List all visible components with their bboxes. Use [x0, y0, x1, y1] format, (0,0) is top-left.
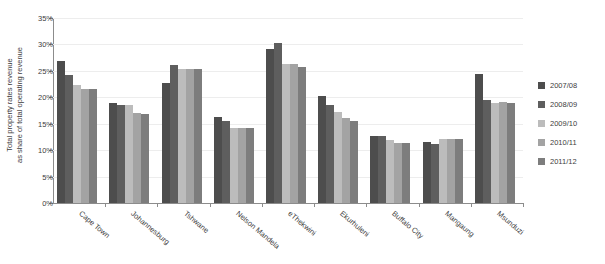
x-tick-mark	[157, 203, 158, 207]
bar	[326, 105, 334, 203]
x-tick-mark	[366, 203, 367, 207]
legend-swatch-icon	[538, 82, 545, 89]
y-tick-label: 5%	[9, 172, 53, 181]
y-tick-label: 10%	[9, 146, 53, 155]
bar	[162, 83, 170, 203]
bar	[81, 89, 89, 203]
legend-swatch-icon	[538, 120, 545, 127]
x-axis-label: Ekurhuleni	[338, 209, 371, 239]
bar	[507, 103, 515, 203]
legend-label: 2010/11	[550, 138, 577, 147]
bar-group	[423, 18, 463, 203]
bar	[246, 128, 254, 203]
bar-group	[266, 18, 306, 203]
x-tick-mark	[262, 203, 263, 207]
bar	[483, 100, 491, 203]
bar	[170, 65, 178, 203]
bar	[230, 128, 238, 203]
x-axis-label: Mangaung	[443, 209, 476, 239]
bar	[334, 112, 342, 203]
bar	[342, 118, 350, 203]
bar	[402, 143, 410, 203]
bar	[475, 74, 483, 204]
bar	[141, 114, 149, 203]
y-tick-label: 30%	[9, 40, 53, 49]
legend-label: 2007/08	[550, 81, 577, 90]
legend-item[interactable]: 2008/09	[538, 95, 605, 114]
bar	[455, 139, 463, 203]
bar-group	[370, 18, 410, 203]
legend: 2007/082008/092009/102010/112011/12	[538, 76, 605, 171]
bar	[499, 102, 507, 203]
bar	[178, 69, 186, 203]
bar-group	[162, 18, 202, 203]
bar-chart: Total property rates revenue as share of…	[0, 0, 605, 264]
bar	[298, 67, 306, 203]
legend-swatch-icon	[538, 139, 545, 146]
bar-group	[109, 18, 149, 203]
x-axis-label: Buffalo City	[391, 209, 426, 240]
y-tick-label: 20%	[9, 93, 53, 102]
legend-item[interactable]: 2011/12	[538, 152, 605, 171]
bar	[282, 64, 290, 203]
x-axis-label: Msunduzi	[495, 209, 525, 237]
legend-label: 2008/09	[550, 100, 577, 109]
bar	[350, 121, 358, 203]
x-tick-mark	[314, 203, 315, 207]
x-axis-line	[53, 203, 524, 204]
legend-item[interactable]: 2009/10	[538, 114, 605, 133]
bar	[89, 89, 97, 203]
x-tick-mark	[523, 203, 524, 207]
y-tick-label: 35%	[9, 14, 53, 23]
x-tick-mark	[471, 203, 472, 207]
bar	[214, 117, 222, 203]
bar	[109, 103, 117, 203]
bar	[73, 85, 81, 203]
bar	[491, 103, 499, 203]
bar	[222, 121, 230, 203]
y-tick-label: 25%	[9, 66, 53, 75]
bar	[378, 136, 386, 203]
bar	[318, 96, 326, 203]
bar	[65, 75, 73, 203]
bar-group	[214, 18, 254, 203]
x-axis-label: Johannesburg	[130, 209, 172, 246]
bar-group	[318, 18, 358, 203]
bar	[370, 136, 378, 203]
bar	[386, 140, 394, 203]
bar	[117, 105, 125, 203]
bar	[394, 143, 402, 203]
legend-swatch-icon	[538, 101, 545, 108]
bar	[238, 128, 246, 203]
bar	[57, 61, 65, 203]
x-axis-label: eThekwini	[286, 209, 318, 238]
bar-group	[475, 18, 515, 203]
x-tick-mark	[210, 203, 211, 207]
bar	[266, 49, 274, 203]
legend-swatch-icon	[538, 158, 545, 165]
bar	[447, 139, 455, 203]
x-tick-mark	[419, 203, 420, 207]
bar	[125, 105, 133, 203]
legend-item[interactable]: 2010/11	[538, 133, 605, 152]
bar	[423, 142, 431, 203]
x-tick-mark	[105, 203, 106, 207]
legend-label: 2011/12	[550, 157, 577, 166]
x-axis-label: Tshwane	[182, 209, 210, 235]
bar	[194, 69, 202, 203]
y-tick-label: 0%	[9, 199, 53, 208]
x-axis-label: Cape Town	[77, 209, 111, 240]
legend-item[interactable]: 2007/08	[538, 76, 605, 95]
bar	[133, 113, 141, 203]
plot-area	[53, 18, 523, 203]
y-axis-ticks: 0%5%10%15%20%25%30%35%	[0, 0, 53, 264]
bar	[186, 69, 194, 203]
bar-group	[57, 18, 97, 203]
y-tick-label: 15%	[9, 119, 53, 128]
bar	[290, 64, 298, 203]
bar	[439, 139, 447, 203]
x-axis-label: Nelson Mandela	[234, 209, 281, 251]
legend-label: 2009/10	[550, 119, 577, 128]
bar	[431, 144, 439, 203]
bar	[274, 43, 282, 203]
